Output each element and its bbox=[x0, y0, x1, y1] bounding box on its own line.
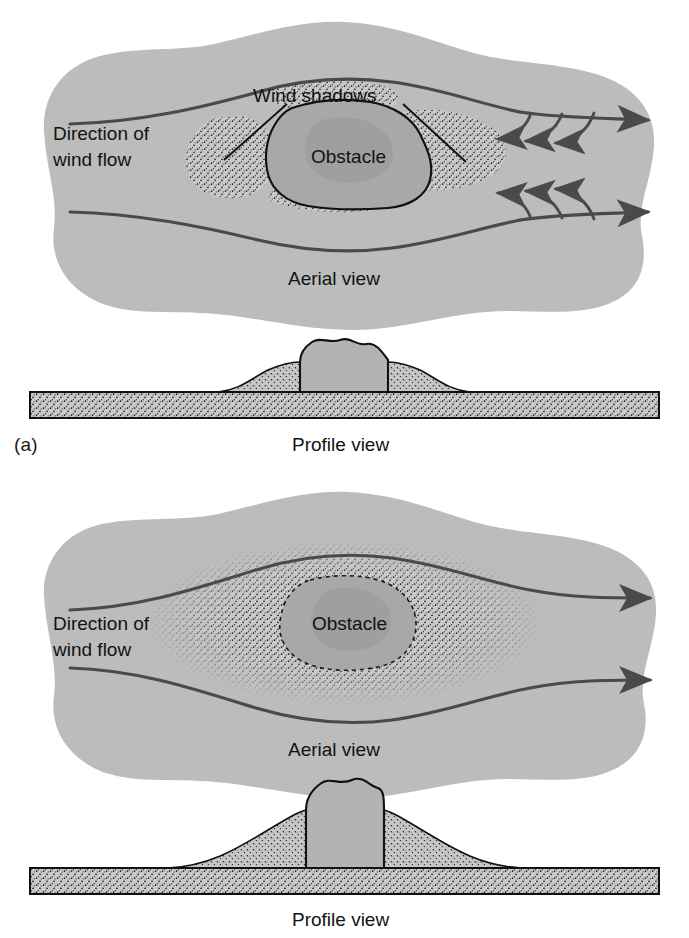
panel-label-a: (a) bbox=[14, 434, 38, 456]
profile-view-label-a: Profile view bbox=[292, 434, 389, 455]
profile-view-a bbox=[30, 339, 659, 418]
panel-a-stage: Direction of wind flow Wind shadows Obst… bbox=[0, 0, 689, 470]
direction-label-b-line1: Direction of bbox=[53, 613, 150, 634]
ground-bar-b bbox=[30, 868, 659, 894]
aerial-view-label-b: Aerial view bbox=[288, 739, 380, 760]
wind-shadows-label-a: Wind shadows bbox=[253, 85, 377, 106]
direction-label-a-line1: Direction of bbox=[53, 123, 150, 144]
panel-b: Direction of wind flow Obstacle Aerial v… bbox=[0, 470, 689, 938]
panel-b-stage: Direction of wind flow Obstacle Aerial v… bbox=[0, 470, 689, 938]
direction-label-a-line2: wind flow bbox=[52, 149, 131, 170]
obstacle-label-b: Obstacle bbox=[312, 613, 387, 634]
obstacle-label-a: Obstacle bbox=[311, 146, 386, 167]
direction-label-b-line2: wind flow bbox=[52, 639, 131, 660]
panel-a: Direction of wind flow Wind shadows Obst… bbox=[0, 0, 689, 470]
aerial-view-label-a: Aerial view bbox=[288, 268, 380, 289]
profile-view-label-b: Profile view bbox=[292, 909, 389, 930]
profile-view-b bbox=[30, 779, 659, 894]
ground-bar-a bbox=[30, 392, 659, 418]
